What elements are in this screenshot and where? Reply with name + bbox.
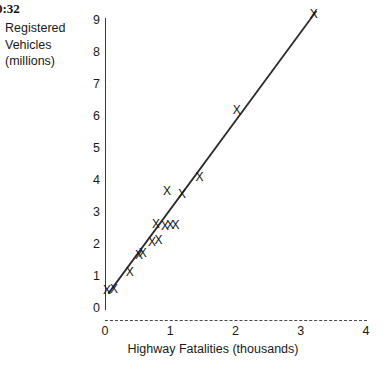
trend-line [0, 0, 386, 372]
chart-canvas: 0:32 Registered Vehicles (millions) 0123… [0, 0, 386, 372]
